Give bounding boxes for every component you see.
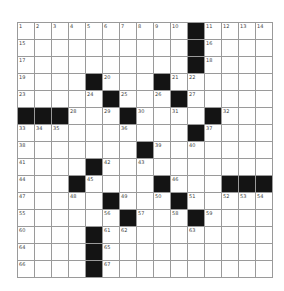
answer-cell[interactable] (51, 226, 68, 243)
answer-cell[interactable]: 45 (85, 175, 102, 192)
answer-cell[interactable]: 59 (204, 209, 221, 226)
answer-cell[interactable] (102, 39, 119, 56)
answer-cell[interactable] (238, 73, 255, 90)
answer-cell[interactable] (34, 243, 51, 260)
answer-cell[interactable] (51, 243, 68, 260)
answer-cell[interactable] (187, 260, 204, 277)
answer-cell[interactable]: 38 (17, 141, 34, 158)
answer-cell[interactable]: 6 (102, 22, 119, 39)
answer-cell[interactable] (153, 124, 170, 141)
answer-cell[interactable] (51, 260, 68, 277)
answer-cell[interactable] (221, 90, 238, 107)
answer-cell[interactable] (119, 260, 136, 277)
answer-cell[interactable]: 31 (170, 107, 187, 124)
answer-cell[interactable]: 42 (102, 158, 119, 175)
answer-cell[interactable]: 67 (102, 260, 119, 277)
answer-cell[interactable] (238, 260, 255, 277)
answer-cell[interactable]: 49 (119, 192, 136, 209)
answer-cell[interactable]: 33 (17, 124, 34, 141)
answer-cell[interactable]: 10 (170, 22, 187, 39)
answer-cell[interactable]: 35 (51, 124, 68, 141)
answer-cell[interactable] (255, 158, 272, 175)
answer-cell[interactable]: 8 (136, 22, 153, 39)
answer-cell[interactable] (51, 90, 68, 107)
answer-cell[interactable] (136, 90, 153, 107)
answer-cell[interactable]: 46 (170, 175, 187, 192)
answer-cell[interactable]: 36 (119, 124, 136, 141)
answer-cell[interactable] (153, 209, 170, 226)
answer-cell[interactable] (153, 107, 170, 124)
answer-cell[interactable] (204, 192, 221, 209)
answer-cell[interactable] (102, 124, 119, 141)
answer-cell[interactable] (51, 209, 68, 226)
answer-cell[interactable] (85, 192, 102, 209)
answer-cell[interactable] (170, 39, 187, 56)
answer-cell[interactable] (153, 260, 170, 277)
answer-cell[interactable]: 11 (204, 22, 221, 39)
answer-cell[interactable]: 4 (68, 22, 85, 39)
answer-cell[interactable] (51, 192, 68, 209)
answer-cell[interactable] (153, 56, 170, 73)
answer-cell[interactable]: 54 (255, 192, 272, 209)
answer-cell[interactable] (119, 243, 136, 260)
answer-cell[interactable] (51, 158, 68, 175)
answer-cell[interactable] (170, 141, 187, 158)
answer-cell[interactable]: 7 (119, 22, 136, 39)
answer-cell[interactable]: 47 (17, 192, 34, 209)
answer-cell[interactable] (221, 209, 238, 226)
answer-cell[interactable] (51, 141, 68, 158)
answer-cell[interactable] (136, 175, 153, 192)
answer-cell[interactable]: 32 (221, 107, 238, 124)
answer-cell[interactable] (204, 260, 221, 277)
answer-cell[interactable]: 23 (17, 90, 34, 107)
answer-cell[interactable] (85, 56, 102, 73)
answer-cell[interactable]: 15 (17, 39, 34, 56)
answer-cell[interactable] (136, 260, 153, 277)
answer-cell[interactable] (34, 56, 51, 73)
answer-cell[interactable] (136, 124, 153, 141)
answer-cell[interactable]: 22 (187, 73, 204, 90)
answer-cell[interactable] (238, 90, 255, 107)
answer-cell[interactable]: 14 (255, 22, 272, 39)
answer-cell[interactable] (85, 39, 102, 56)
answer-cell[interactable] (119, 141, 136, 158)
answer-cell[interactable]: 1 (17, 22, 34, 39)
answer-cell[interactable]: 60 (17, 226, 34, 243)
answer-cell[interactable]: 55 (17, 209, 34, 226)
answer-cell[interactable] (255, 107, 272, 124)
answer-cell[interactable] (170, 158, 187, 175)
answer-cell[interactable]: 16 (204, 39, 221, 56)
answer-cell[interactable] (204, 158, 221, 175)
answer-cell[interactable] (187, 158, 204, 175)
answer-cell[interactable] (238, 158, 255, 175)
answer-cell[interactable]: 62 (119, 226, 136, 243)
answer-cell[interactable] (51, 56, 68, 73)
answer-cell[interactable] (238, 141, 255, 158)
answer-cell[interactable]: 58 (170, 209, 187, 226)
answer-cell[interactable] (68, 73, 85, 90)
answer-cell[interactable] (255, 141, 272, 158)
answer-cell[interactable]: 61 (102, 226, 119, 243)
answer-cell[interactable] (68, 56, 85, 73)
answer-cell[interactable] (34, 226, 51, 243)
answer-cell[interactable] (68, 39, 85, 56)
answer-cell[interactable] (204, 90, 221, 107)
answer-cell[interactable]: 5 (85, 22, 102, 39)
answer-cell[interactable] (255, 243, 272, 260)
answer-cell[interactable] (136, 243, 153, 260)
answer-cell[interactable] (85, 209, 102, 226)
answer-cell[interactable]: 3 (51, 22, 68, 39)
answer-cell[interactable] (136, 73, 153, 90)
answer-cell[interactable] (221, 226, 238, 243)
answer-cell[interactable] (238, 124, 255, 141)
answer-cell[interactable] (34, 192, 51, 209)
answer-cell[interactable]: 53 (238, 192, 255, 209)
answer-cell[interactable] (238, 209, 255, 226)
answer-cell[interactable]: 65 (102, 243, 119, 260)
answer-cell[interactable] (68, 260, 85, 277)
answer-cell[interactable] (102, 141, 119, 158)
answer-cell[interactable] (153, 243, 170, 260)
answer-cell[interactable] (170, 124, 187, 141)
answer-cell[interactable] (68, 90, 85, 107)
answer-cell[interactable]: 50 (153, 192, 170, 209)
